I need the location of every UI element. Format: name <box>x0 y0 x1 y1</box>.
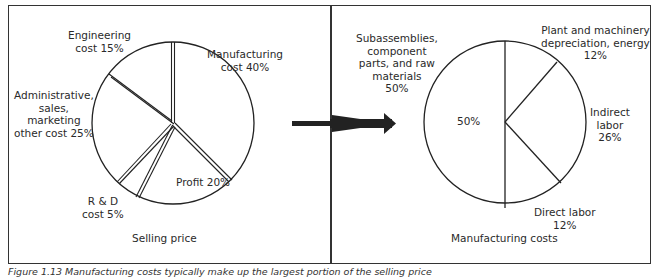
left-panel-title: Selling price <box>132 232 197 245</box>
label-manufacturing-cost: Manufacturingcost 40% <box>207 48 283 73</box>
figure-caption: Figure 1.13 Manufacturing costs typicall… <box>8 266 432 277</box>
label-rd-cost: R & Dcost 5% <box>82 195 124 220</box>
center-percentage-label: 50% <box>457 115 480 128</box>
manufacturing-costs-pie <box>424 41 586 208</box>
label-engineering-cost: Engineeringcost 15% <box>68 29 131 54</box>
arrow-icon <box>292 113 396 134</box>
label-subassemblies: Subassemblies,component parts, and rawma… <box>356 32 438 95</box>
right-panel-title: Manufacturing costs <box>451 232 558 245</box>
label-profit: Profit 20% <box>176 176 230 189</box>
label-indirect-labor: Indirectlabor 26% <box>590 106 630 144</box>
label-direct-labor: Direct labor12% <box>534 206 596 231</box>
label-plant-machinery: Plant and machinerydepreciation, energy … <box>541 24 650 62</box>
label-administrative-cost: Administrative,sales, marketingother cos… <box>14 89 94 139</box>
